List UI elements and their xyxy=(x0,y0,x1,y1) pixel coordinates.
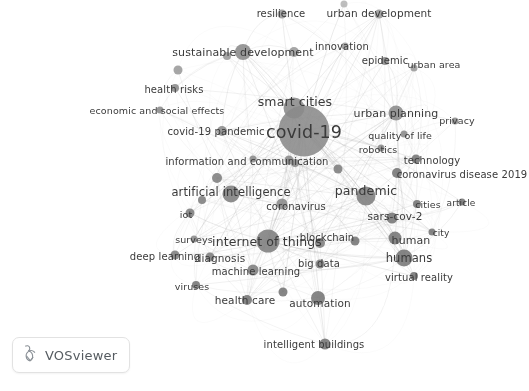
vosviewer-badge-label: VOSviewer xyxy=(45,348,117,363)
vosviewer-map-view: covid-19smart citiesinternet of thingspa… xyxy=(0,0,529,391)
network-graph-canvas[interactable] xyxy=(0,0,529,391)
vosviewer-logo-icon xyxy=(22,344,39,366)
vosviewer-badge[interactable]: VOSviewer xyxy=(12,337,130,373)
